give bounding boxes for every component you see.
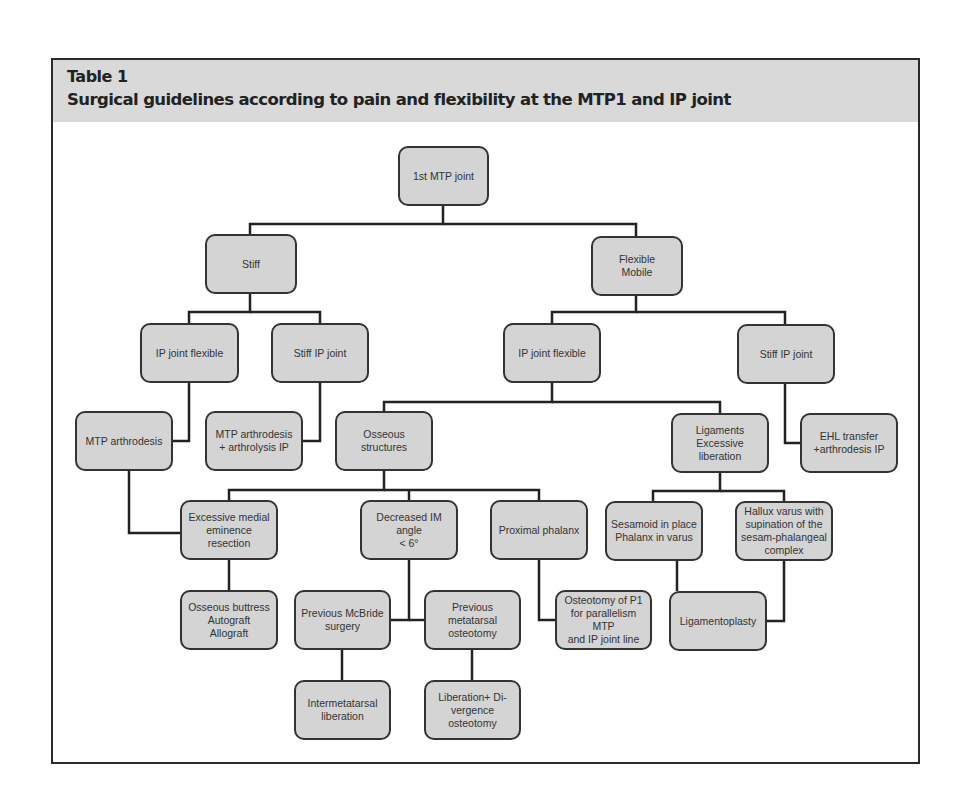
node-previous-metatarsal-osteotomy: Previous metatarsal osteotomy	[424, 590, 521, 650]
node-ip-joint-flexible-right: IP joint flexible	[503, 323, 601, 383]
node-previous-mcbride: Previous McBride surgery	[294, 590, 391, 650]
node-ligamentoplasty: Ligamentoplasty	[669, 591, 767, 651]
node-decreased-im-angle: Decreased IM angle < 6°	[360, 500, 458, 560]
node-osteotomy-p1: Osteotomy of P1 for parallelism MTP and …	[555, 590, 652, 650]
node-sesamoid-in-place: Sesamoid in place Phalanx in varus	[605, 501, 703, 561]
node-proximal-phalanx: Proximal phalanx	[490, 500, 588, 560]
node-osseous-buttress: Osseous buttress Autograft Allograft	[180, 590, 278, 650]
node-flexible-mobile: Flexible Mobile	[591, 236, 683, 296]
node-hallux-varus: Hallux varus with supination of the sesa…	[735, 501, 833, 561]
node-mtp-arthrodesis: MTP arthrodesis	[75, 411, 173, 471]
node-stiff-ip-joint-right: Stiff IP joint	[737, 324, 835, 384]
node-1st-mtp-joint: 1st MTP joint	[398, 146, 489, 206]
node-liberation-divergence-osteotomy: Liberation+ Di- vergence osteotomy	[424, 680, 521, 740]
node-excessive-medial-eminence: Excessive medial eminence resection	[180, 500, 278, 560]
node-osseous-structures: Osseous structures	[335, 411, 433, 471]
node-ehl-transfer: EHL transfer +arthrodesis IP	[800, 413, 898, 473]
node-ligaments-excessive-liberation: Ligaments Excessive liberation	[671, 413, 769, 473]
node-stiff: Stiff	[205, 234, 297, 294]
node-ip-joint-flexible-left: IP joint flexible	[140, 323, 239, 383]
node-stiff-ip-joint-left: Stiff IP joint	[271, 323, 369, 383]
node-mtp-arthrodesis-arthrolysis: MTP arthrodesis + arthrolysis IP	[205, 411, 303, 471]
node-intermetatarsal-liberation: Intermetatarsal liberation	[294, 680, 391, 740]
